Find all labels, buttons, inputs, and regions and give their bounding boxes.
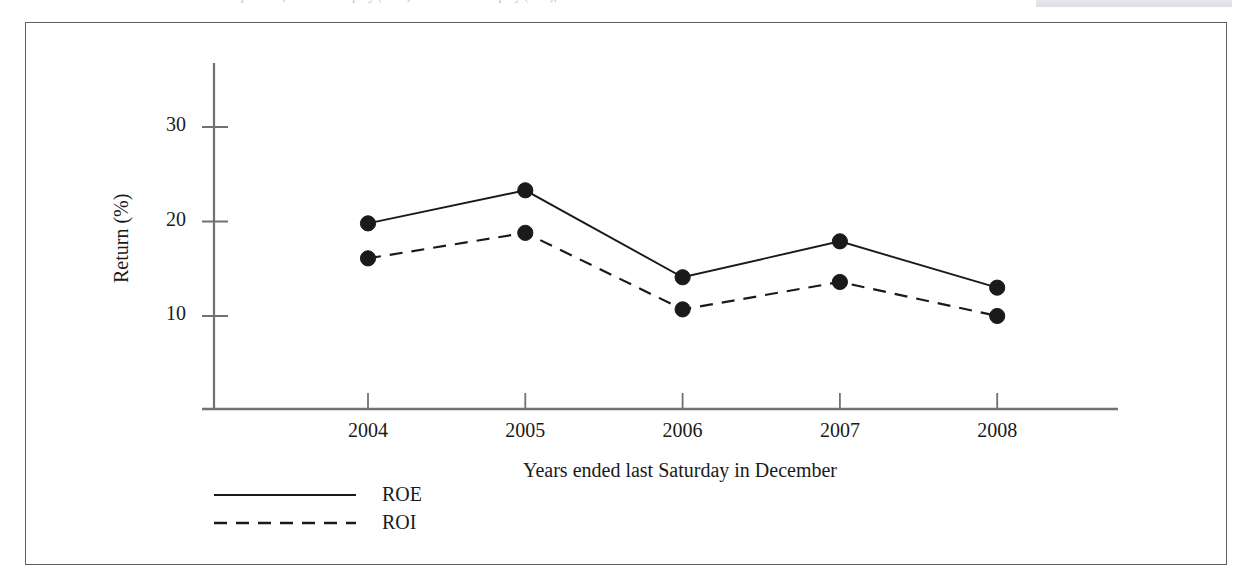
x-tick-label: 2007 xyxy=(795,419,885,442)
data-point-ROE-2004 xyxy=(360,216,375,231)
x-tick-label: 2006 xyxy=(638,419,728,442)
x-tick-label: 2004 xyxy=(323,419,413,442)
legend-entry-label: ROI xyxy=(382,511,416,534)
data-point-ROI-2004 xyxy=(360,251,375,266)
data-point-ROI-2007 xyxy=(832,274,847,289)
x-tick-label: 2005 xyxy=(480,419,570,442)
data-point-ROI-2008 xyxy=(990,308,1005,323)
line-chart: Return (%) 10 20 30 2004 2005 2006 2007 … xyxy=(26,23,1228,566)
legend-entry-label: ROE xyxy=(382,483,422,506)
chart-tick-marks xyxy=(202,127,997,409)
figure-frame: Return (%) 10 20 30 2004 2005 2006 2007 … xyxy=(25,22,1227,565)
y-tick-label: 20 xyxy=(146,208,186,231)
x-axis-title: Years ended last Saturday in December xyxy=(380,459,980,482)
y-axis-title: Return (%) xyxy=(110,194,133,283)
data-point-ROE-2008 xyxy=(990,280,1005,295)
y-tick-label: 30 xyxy=(146,113,186,136)
data-point-ROE-2006 xyxy=(675,270,690,285)
chart-canvas xyxy=(26,23,1228,566)
scan-top-caption-strip: Intel Corporation, Return on Equity (ROE… xyxy=(0,0,1254,12)
data-point-ROE-2005 xyxy=(518,183,533,198)
data-point-ROI-2005 xyxy=(518,225,533,240)
chart-series-lines xyxy=(368,190,997,316)
data-point-ROE-2007 xyxy=(832,234,847,249)
data-point-ROI-2006 xyxy=(675,302,690,317)
scan-artifact-block xyxy=(1036,0,1232,7)
x-tick-label: 2008 xyxy=(952,419,1042,442)
y-tick-label: 10 xyxy=(146,302,186,325)
chart-axes xyxy=(202,63,1118,409)
chart-legend-swatches xyxy=(214,495,356,523)
cutoff-caption-text: Intel Corporation, Return on Equity (ROE… xyxy=(196,0,570,4)
